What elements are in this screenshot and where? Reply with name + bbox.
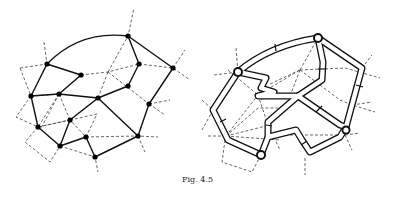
vertex-K — [67, 117, 72, 122]
figure-caption: Fig. 4.5 — [182, 175, 213, 184]
vertex-A — [44, 61, 49, 66]
vertex-F — [125, 33, 130, 38]
figure-4-5-diagram — [0, 0, 394, 197]
vertex-I — [170, 65, 175, 70]
left-graph-edges — [31, 35, 173, 157]
vertex-L — [35, 124, 40, 129]
vertex-B — [78, 72, 83, 77]
right-ribbon-graph-panel — [202, 33, 380, 175]
left-graph-panel — [16, 8, 190, 172]
vertex-N — [83, 134, 88, 139]
vertex-J — [146, 101, 151, 106]
vertex-M — [57, 143, 62, 148]
vertex-H — [125, 83, 130, 88]
vertex-P — [135, 133, 140, 138]
vertex-G — [136, 61, 141, 66]
vertex-O — [92, 154, 97, 159]
vertex-D — [56, 91, 61, 96]
vertex-E — [95, 95, 100, 100]
left-dual-graph-dashed — [16, 8, 190, 172]
vertex-C — [28, 93, 33, 98]
right-ribbon-edges — [213, 38, 362, 155]
